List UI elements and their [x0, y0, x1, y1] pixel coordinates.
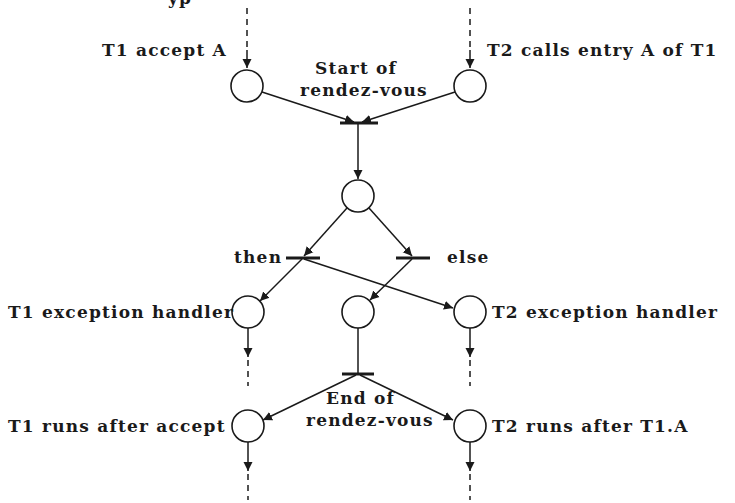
label-then: then: [234, 247, 282, 267]
label-t2-runs-after: T2 runs after T1.A: [492, 416, 689, 436]
petri-net-diagram: yp T1 accept A T2 calls entry A of T1 St…: [0, 0, 735, 503]
arc-then-to-t2-exception: [304, 259, 453, 308]
clipped-top-text: yp: [167, 0, 192, 8]
label-t1-accept: T1 accept A: [102, 40, 227, 60]
arc-middle-to-then: [304, 208, 347, 256]
arc-else-to-place: [370, 259, 412, 300]
place-t2-exception: [454, 296, 486, 328]
place-t2-call: [454, 70, 486, 102]
label-end-line1: End of: [326, 388, 395, 408]
place-t2-after: [454, 410, 486, 442]
place-t1-accept: [231, 70, 263, 102]
label-t2-calls: T2 calls entry A of T1: [487, 40, 718, 60]
label-end-line2: rendez-vous: [306, 410, 434, 430]
label-t1-exception: T1 exception handler: [8, 302, 234, 322]
label-t1-runs-after: T1 runs after accept: [8, 416, 226, 436]
label-t2-exception: T2 exception handler: [492, 302, 718, 322]
place-t1-exception: [232, 296, 264, 328]
label-else: else: [447, 247, 489, 267]
place-else: [342, 296, 374, 328]
arc-middle-to-else: [369, 208, 412, 256]
label-start-line2: rendez-vous: [300, 80, 428, 100]
place-rendezvous: [342, 180, 374, 212]
label-start-line1: Start of: [315, 58, 398, 78]
place-t1-after: [232, 410, 264, 442]
